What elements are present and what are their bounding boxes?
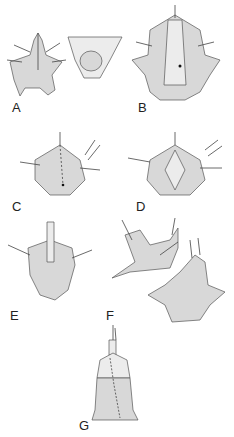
panel-label-g: G: [79, 418, 89, 433]
panel-f-drawing-top: [112, 218, 178, 278]
panel-label-c: C: [12, 199, 21, 214]
panel-c-drawing: [20, 132, 100, 195]
panel-d-drawing: [128, 132, 222, 195]
panel-a-drawing-left: [7, 33, 66, 96]
panel-a-drawing-right: [68, 37, 122, 78]
panel-label-b: B: [138, 100, 147, 115]
panel-g-drawing: [92, 325, 138, 420]
panel-label-d: D: [136, 199, 145, 214]
illustration-canvas: [0, 0, 234, 437]
panel-label-a: A: [12, 100, 21, 115]
panel-label-e: E: [10, 308, 19, 323]
panel-e-drawing: [8, 222, 92, 300]
panel-label-f: F: [106, 308, 114, 323]
panel-b-drawing: [132, 5, 220, 100]
